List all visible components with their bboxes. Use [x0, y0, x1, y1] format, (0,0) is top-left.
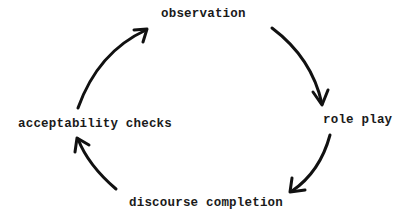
arrow-observation-to-role-play: [272, 28, 328, 105]
cycle-arrows: [0, 0, 409, 220]
arrow-role-play-to-discourse-completion: [290, 135, 330, 192]
arrow-discourse-completion-to-acceptability-checks: [75, 138, 116, 189]
arrow-acceptability-checks-to-observation: [78, 29, 147, 108]
